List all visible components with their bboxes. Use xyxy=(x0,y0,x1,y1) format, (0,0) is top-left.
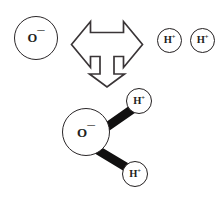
water-hydrogen-top-label: H+ xyxy=(133,96,145,107)
water-hydrogen-top-charge: + xyxy=(141,93,145,100)
free-proton-2: H+ xyxy=(190,28,215,53)
water-oxygen-atom: O¯¯ xyxy=(62,108,110,156)
water-hydrogen-bottom: H+ xyxy=(122,161,148,187)
trifurcate-arrow-icon xyxy=(69,15,145,89)
free-oxide-ion: O¯¯ xyxy=(14,16,58,60)
water-hydrogen-top: H+ xyxy=(126,88,152,114)
water-oxygen-label: O¯¯ xyxy=(77,126,95,139)
water-hydrogen-bottom-charge: + xyxy=(137,166,141,173)
free-proton-1-label: H+ xyxy=(164,35,176,46)
free-proton-2-charge: + xyxy=(205,33,209,40)
free-proton-1: H+ xyxy=(157,28,182,53)
free-oxide-ion-charge: ¯¯ xyxy=(37,30,44,39)
trifurcate-arrow-path xyxy=(72,22,143,88)
diagram-canvas: O¯¯ H+ H+ O¯¯ H+ H+ xyxy=(0,0,223,208)
free-proton-2-label: H+ xyxy=(197,35,209,46)
water-oxygen-charge: ¯¯ xyxy=(87,124,95,133)
free-oxide-ion-label: O¯¯ xyxy=(27,32,44,45)
free-proton-1-charge: + xyxy=(172,33,176,40)
water-hydrogen-bottom-label: H+ xyxy=(129,169,141,180)
